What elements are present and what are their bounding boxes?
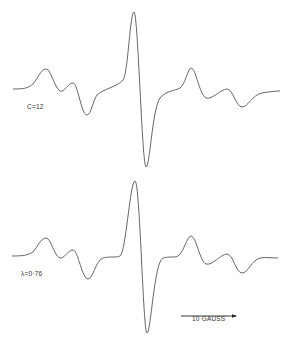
scale-bar-label: 10 GAUSS [192,315,225,322]
top-spectrum-trace [13,12,280,167]
spectra-figure [0,0,291,345]
bottom-spectrum-trace [12,181,278,333]
top-spectrum-label: C=12 [27,103,44,110]
bottom-spectrum-label: λ=0·76 [21,270,42,277]
